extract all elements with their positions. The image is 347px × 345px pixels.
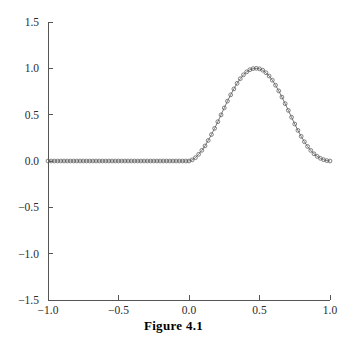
y-tick-label: 1.0 (25, 62, 40, 74)
figure-caption: Figure 4.1 (0, 318, 347, 334)
tick-labels-group: 1.51.00.50.0−0.5−1.0−1.5−1.0−0.50.00.51.… (18, 16, 337, 316)
x-tick-label: 0.0 (182, 304, 197, 316)
y-tick-label: −0.5 (18, 201, 39, 213)
x-tick-label: 1.0 (323, 304, 338, 316)
figure-container: 1.51.00.50.0−0.5−1.0−1.5−1.0−0.50.00.51.… (0, 0, 347, 345)
y-tick-label: 1.5 (25, 16, 40, 28)
y-tick-label: −1.0 (18, 248, 39, 260)
data-line (48, 68, 330, 161)
y-tick-label: 0.5 (25, 109, 40, 121)
y-tick-label: −1.5 (18, 294, 39, 306)
data-series-group (46, 66, 332, 162)
x-tick-label: −1.0 (38, 304, 59, 316)
y-tick-label: 0.0 (25, 155, 40, 167)
x-tick-label: 0.5 (252, 304, 267, 316)
x-tick-label: −0.5 (108, 304, 129, 316)
plot-area: 1.51.00.50.0−0.5−1.0−1.5−1.0−0.50.00.51.… (0, 0, 347, 345)
